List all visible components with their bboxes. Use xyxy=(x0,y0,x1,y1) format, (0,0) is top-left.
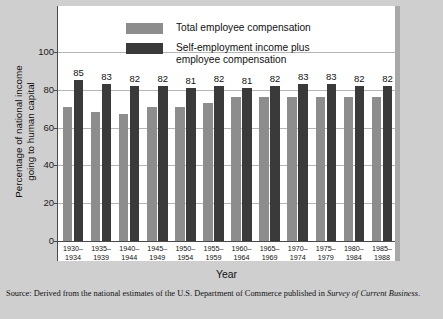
y-tick-mark-0 xyxy=(54,241,58,242)
bar-value-label-4: 81 xyxy=(180,76,202,86)
bar-total-employee-compensation-2 xyxy=(119,114,129,241)
bar-total-employee-compensation-0 xyxy=(63,107,73,241)
y-tick-mark-60 xyxy=(54,128,58,129)
bar-self-employment-income-8 xyxy=(298,84,308,241)
bar-value-label-7: 82 xyxy=(264,74,286,84)
y-axis-ticks: 020406080100 xyxy=(0,0,54,319)
source-suffix: . xyxy=(418,289,420,298)
y-tick-label-20: 20 xyxy=(30,198,54,207)
x-axis-label-7: 1965–1969 xyxy=(255,245,285,262)
bar-self-employment-income-4 xyxy=(186,88,196,241)
bar-value-label-0: 85 xyxy=(68,68,90,78)
legend-swatch-dark xyxy=(126,43,163,54)
x-axis-label-1: 1935–1939 xyxy=(86,245,116,262)
bar-self-employment-income-3 xyxy=(158,86,168,241)
bar-total-employee-compensation-8 xyxy=(287,97,297,241)
legend-label-0: Total employee compensation xyxy=(176,22,311,34)
bar-total-employee-compensation-3 xyxy=(147,107,157,241)
bar-self-employment-income-10 xyxy=(355,86,365,241)
y-axis-line xyxy=(57,6,58,242)
source-note: Source: Derived from the national estima… xyxy=(6,288,438,299)
x-axis-label-11: 1985–1988 xyxy=(367,245,397,262)
bar-value-label-9: 83 xyxy=(320,72,342,82)
x-axis-label-3: 1945–1949 xyxy=(142,245,172,262)
y-tick-label-40: 40 xyxy=(30,160,54,169)
chart-legend: Total employee compensation Self-employm… xyxy=(126,22,376,62)
source-prefix: Source: Derived from the national estima… xyxy=(6,289,327,298)
x-axis-title: Year xyxy=(58,268,395,280)
bar-total-employee-compensation-4 xyxy=(175,107,185,241)
y-tick-mark-80 xyxy=(54,90,58,91)
bar-self-employment-income-2 xyxy=(130,86,140,241)
legend-swatch-light xyxy=(126,23,163,34)
figure-container: Percentage of national income going to h… xyxy=(0,0,443,319)
y-tick-label-80: 80 xyxy=(30,85,54,94)
bar-value-label-11: 82 xyxy=(376,74,398,84)
y-tick-mark-100 xyxy=(54,52,58,53)
bar-value-label-3: 82 xyxy=(152,74,174,84)
bar-value-label-10: 82 xyxy=(348,74,370,84)
bar-self-employment-income-11 xyxy=(383,86,393,241)
bar-value-label-2: 82 xyxy=(124,74,146,84)
y-tick-mark-20 xyxy=(54,203,58,204)
bar-self-employment-income-9 xyxy=(327,84,337,241)
bar-self-employment-income-7 xyxy=(270,86,280,241)
bar-total-employee-compensation-10 xyxy=(344,97,354,241)
x-axis-label-8: 1970–1974 xyxy=(283,245,313,262)
bar-value-label-5: 82 xyxy=(208,74,230,84)
x-axis-line xyxy=(58,241,395,242)
bar-value-label-8: 83 xyxy=(292,72,314,82)
bar-value-label-1: 83 xyxy=(96,72,118,82)
panel-shadow-right xyxy=(395,6,400,261)
bar-self-employment-income-6 xyxy=(242,88,252,241)
bar-self-employment-income-5 xyxy=(214,86,224,241)
y-tick-mark-40 xyxy=(54,165,58,166)
legend-item-self-employment-income: Self-employment income plus employee com… xyxy=(126,42,376,55)
bar-total-employee-compensation-7 xyxy=(259,97,269,241)
bar-self-employment-income-1 xyxy=(102,84,112,241)
x-axis-label-9: 1975–1979 xyxy=(311,245,341,262)
y-tick-label-60: 60 xyxy=(30,123,54,132)
legend-item-total-employee-compensation: Total employee compensation xyxy=(126,22,376,35)
x-axis-label-5: 1955–1959 xyxy=(198,245,228,262)
x-axis-label-10: 1980–1984 xyxy=(339,245,369,262)
x-axis-label-4: 1950–1954 xyxy=(170,245,200,262)
x-axis-label-0: 1930–1934 xyxy=(58,245,88,262)
x-axis-label-2: 1940–1944 xyxy=(114,245,144,262)
bar-total-employee-compensation-11 xyxy=(372,97,382,241)
bar-total-employee-compensation-1 xyxy=(91,112,101,241)
bar-total-employee-compensation-9 xyxy=(316,97,326,241)
source-italic-title: Survey of Current Business xyxy=(327,289,418,298)
y-tick-label-0: 0 xyxy=(30,236,54,245)
x-axis-label-6: 1960–1964 xyxy=(227,245,257,262)
bar-value-label-6: 81 xyxy=(236,76,258,86)
y-tick-label-100: 100 xyxy=(30,47,54,56)
legend-label-1: Self-employment income plus employee com… xyxy=(176,42,310,65)
bar-self-employment-income-0 xyxy=(74,80,84,241)
bar-total-employee-compensation-6 xyxy=(231,97,241,241)
bar-total-employee-compensation-5 xyxy=(203,103,213,241)
